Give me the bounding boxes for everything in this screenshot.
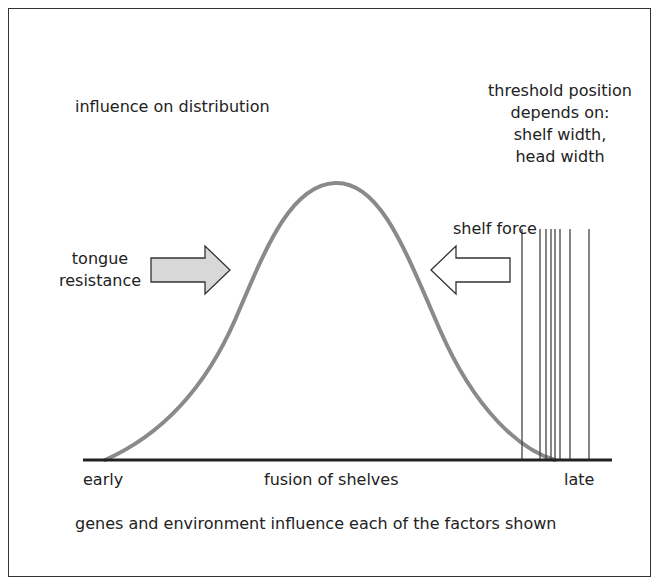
tongue-resistance-label: tongue resistance [55,248,145,292]
axis-label-fusion-of-shelves: fusion of shelves [264,469,399,491]
tongue-resistance-arrow-icon [151,246,230,294]
axis-label-late: late [564,469,594,491]
footer-note: genes and environment influence each of … [75,513,556,535]
shelf-force-arrow-icon [431,246,510,294]
shelf-force-label: shelf force [453,218,537,240]
threshold-label: threshold position depends on: shelf wid… [470,80,650,168]
axis-label-early: early [83,469,123,491]
threshold-lines [522,229,589,460]
influence-on-distribution-label: influence on distribution [75,96,270,118]
